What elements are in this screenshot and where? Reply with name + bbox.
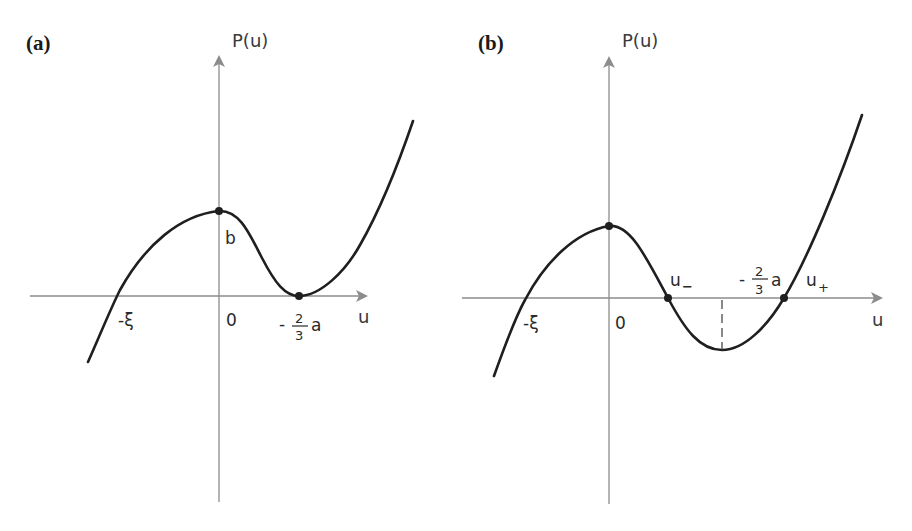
fraction-denominator: 3 [295,328,303,343]
u-symbol: u [806,270,817,290]
fraction-numerator: 2 [755,264,763,279]
panel-a-zero-label: 0 [226,310,237,330]
subscript-minus: − [682,279,693,294]
panel-b-x-axis-label: u [872,309,883,330]
panel-b-u-plus-point [780,294,788,302]
panel-a-double-root-point [295,292,303,300]
panel-b-neg-xi-label: -ξ [523,313,539,333]
panel-a-max-point [215,207,223,215]
figure-canvas: (a) P(u) u b -ξ 0 - 2 3 a (b) P(u) u [0,0,912,531]
panel-b-neg-two-thirds-a-label: - 2 3 a [739,264,781,297]
panel-b-u-minus-point [664,294,672,302]
panel-a-neg-xi-label: -ξ [118,310,134,330]
panel-b-y-axis-label: P(u) [622,30,658,51]
panel-a-neg-two-thirds-a-label: - 2 3 a [279,311,321,343]
panel-a-label: (a) [26,31,51,55]
panel-a-x-axis-label: u [358,306,369,327]
panel-a-b-label: b [225,228,236,248]
subscript-plus: + [818,280,829,295]
panel-b: (b) P(u) u -ξ 0 u − - 2 3 a u + [462,30,883,504]
a-symbol: a [771,270,781,290]
panel-b-max-point [605,222,613,230]
u-symbol: u [670,270,681,290]
panel-b-curve [494,115,862,376]
fraction-numerator: 2 [295,311,303,326]
panel-b-u-plus-label: u + [806,270,829,295]
panel-b-label: (b) [478,31,504,55]
panel-b-zero-label: 0 [615,313,626,333]
a-symbol: a [311,315,321,335]
panel-a: (a) P(u) u b -ξ 0 - 2 3 a [26,30,413,502]
minus-sign: - [739,269,745,289]
panel-a-y-axis-label: P(u) [232,30,268,51]
fraction-denominator: 3 [755,282,763,297]
panel-b-u-minus-label: u − [670,270,693,294]
minus-sign: - [279,314,285,334]
